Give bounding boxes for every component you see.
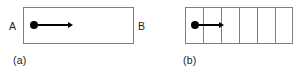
motion-arrow-shaft-b [199,24,219,25]
cell-divider-b-5 [275,8,276,43]
motion-arrow-shaft-a [38,24,68,25]
cell-divider-b-3 [239,8,240,43]
motion-arrow-head-b [219,22,224,28]
cell-divider-b-4 [257,8,258,43]
particle-marker-a [30,21,38,29]
endpoint-label-a-right: B [138,21,145,32]
particle-marker-b [191,21,199,29]
motion-arrow-head-a [68,22,73,28]
panel-caption-b: (b) [183,55,196,66]
figure-root: A B (a) (b) [0,0,305,72]
panel-caption-a: (a) [13,55,26,66]
endpoint-label-a-left: A [9,21,16,32]
